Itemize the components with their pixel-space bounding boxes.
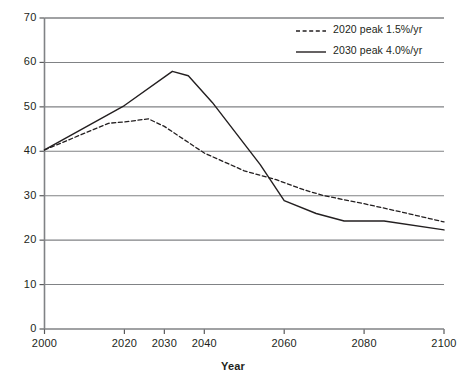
- y-axis-tick-label: 10: [11, 278, 37, 290]
- x-axis-title: Year: [0, 360, 466, 372]
- line-chart: 010203040506070 200020202030204020602080…: [0, 0, 466, 389]
- legend-dashed-line-icon: [296, 23, 326, 35]
- y-axis-tick-label: 60: [11, 55, 37, 67]
- x-axis-tick-label: 2040: [184, 337, 224, 349]
- legend-item-label: 2030 peak 4.0%/yr: [333, 44, 422, 56]
- x-axis-tick-label: 2030: [144, 337, 184, 349]
- y-axis-tick-label: 30: [11, 189, 37, 201]
- x-axis-tick-label: 2020: [104, 337, 144, 349]
- legend-solid-line-icon: [296, 44, 326, 56]
- x-axis-tick-label: 2000: [25, 337, 65, 349]
- legend-item[interactable]: 2020 peak 1.5%/yr: [296, 18, 462, 39]
- y-axis-tick-label: 50: [11, 100, 37, 112]
- legend-item-label: 2020 peak 1.5%/yr: [333, 23, 422, 35]
- y-axis-tick-label: 40: [11, 144, 37, 156]
- data-series: [45, 71, 445, 230]
- y-axis-tick-label: 20: [11, 233, 37, 245]
- x-axis-tick-label: 2060: [264, 337, 304, 349]
- y-axis-tick-label: 0: [11, 322, 37, 334]
- series-line: [45, 71, 445, 230]
- legend-item[interactable]: 2030 peak 4.0%/yr: [296, 39, 462, 60]
- y-axis-tick-label: 70: [11, 11, 37, 23]
- chart-legend: 2020 peak 1.5%/yr 2030 peak 4.0%/yr: [296, 18, 462, 60]
- series-line: [45, 119, 445, 222]
- x-axis-tick-label: 2080: [344, 337, 384, 349]
- x-axis-tick-label: 2100: [424, 337, 464, 349]
- x-axis-ticks: [45, 329, 445, 334]
